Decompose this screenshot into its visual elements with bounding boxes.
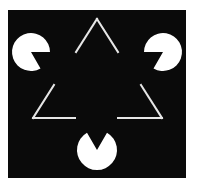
- kanizsa-figure: Kanizsa triangle illusion: [0, 0, 197, 191]
- illusion-canvas: [0, 0, 197, 191]
